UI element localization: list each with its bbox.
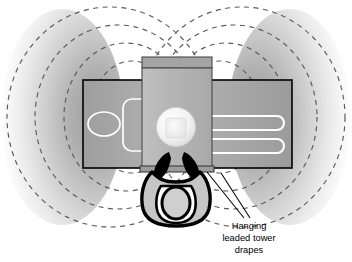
tower-top-cap bbox=[142, 57, 212, 68]
operator-head bbox=[162, 187, 190, 219]
patient-table-right bbox=[204, 80, 292, 168]
annotation-line-1: Hanging bbox=[232, 221, 267, 231]
detector-inner-panel bbox=[166, 118, 186, 138]
radiation-scatter-diagram: Hanging leaded tower drapes bbox=[0, 0, 352, 262]
table-right-surface bbox=[208, 80, 292, 168]
annotation-line-3: drapes bbox=[235, 245, 264, 255]
diagram-canvas: Hanging leaded tower drapes bbox=[0, 0, 352, 262]
annotation-line-2: leaded tower bbox=[222, 233, 275, 243]
circular-detector bbox=[157, 108, 196, 147]
table-left-surface bbox=[83, 80, 145, 168]
patient-table-left bbox=[83, 80, 151, 168]
